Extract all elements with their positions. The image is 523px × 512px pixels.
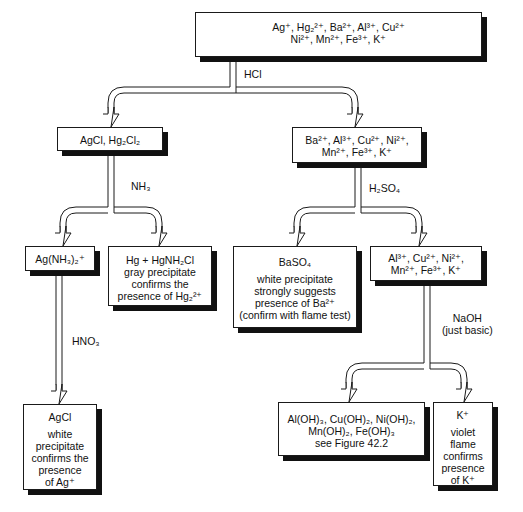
node-text: white <box>28 428 92 440</box>
node-text: presence of Ba²⁺ <box>238 297 352 309</box>
reagent-h2so4: H₂SO₄ <box>369 182 400 194</box>
hydroxides-box: Al(OH)₃, Cu(OH)₂, Ni(OH)₂, Mn(OH)₂, Fe(O… <box>278 402 425 456</box>
nh3-split-left <box>60 207 108 232</box>
hcl-stem <box>230 62 236 93</box>
arrowhead-icon <box>55 226 71 246</box>
node-text: see Figure 42.2 <box>283 437 420 449</box>
node-text: Mn(OH)₂, Fe(OH)₃ <box>283 425 420 437</box>
h2so4-split-right <box>361 207 422 232</box>
node-text: violet <box>438 426 488 438</box>
arrowhead-icon <box>103 107 119 127</box>
start-ions-box: Ag⁺, Hg₂²⁺, Ba²⁺, Al³⁺, Cu²⁺ Ni²⁺, Mn²⁺,… <box>195 12 482 57</box>
potassium-box: K⁺ violet flame confirms presence of K⁺ <box>433 402 493 486</box>
reagent-hcl: HCl <box>244 68 262 80</box>
reagent-naoh-note: (just basic) <box>442 324 493 336</box>
reagent-hno3: HNO₃ <box>72 335 100 347</box>
hno3-stem <box>56 270 62 390</box>
arrowhead-icon <box>347 107 363 127</box>
node-text: flame <box>438 438 488 450</box>
node-text: Ag⁺, Hg₂²⁺, Ba²⁺, Al³⁺, Cu²⁺ <box>200 21 477 33</box>
node-text: Ag(NH₃)₂⁺ <box>30 253 90 265</box>
node-text: Al(OH)₃, Cu(OH)₂, Ni(OH)₂, <box>283 413 420 425</box>
node-text: (confirm with flame test) <box>238 309 352 321</box>
arrowhead-icon <box>151 226 167 246</box>
node-text: confirms <box>438 450 488 462</box>
node-text: gray precipitate <box>113 266 207 278</box>
arrowhead-icon <box>456 382 472 402</box>
hcl-split-right <box>236 87 358 113</box>
mercury-result-box: Hg + HgNH₂Cl gray precipitate confirms t… <box>108 246 212 306</box>
reagent-nh3: NH₃ <box>131 180 150 192</box>
silver-chloride-final-box: AgCl white precipitate confirms the pres… <box>23 404 97 490</box>
node-text: Hg + HgNH₂Cl <box>113 254 207 266</box>
node-text: of K⁺ <box>438 474 488 486</box>
node-text: of Ag⁺ <box>28 476 92 488</box>
node-text: Ni²⁺, Mn²⁺, Fe³⁺, K⁺ <box>200 33 477 45</box>
barium-sulfate-box: BaSO₄ white precipitate strongly suggest… <box>233 246 357 328</box>
silver-ammine-box: Ag(NH₃)₂⁺ <box>25 246 95 271</box>
arrowhead-icon <box>51 384 67 404</box>
chloride-precipitate-box: AgCl, Hg₂Cl₂ <box>57 127 163 151</box>
node-text: white precipitate <box>238 273 352 285</box>
hcl-split-left <box>108 87 236 113</box>
node-text: Mn²⁺, Fe³⁺, K⁺ <box>375 264 477 276</box>
node-text: presence <box>28 464 92 476</box>
node-text: confirms the <box>113 278 207 290</box>
nh3-stem <box>108 150 114 213</box>
node-title: K⁺ <box>438 409 488 421</box>
node-title: BaSO₄ <box>238 256 352 268</box>
reagent-naoh: NaOH (just basic) <box>442 312 493 336</box>
node-text: strongly suggests <box>238 285 352 297</box>
arrowhead-icon <box>411 226 427 246</box>
reagent-naoh-name: NaOH <box>442 312 493 324</box>
node-text: Ba²⁺, Al³⁺, Cu²⁺, Ni²⁺, <box>297 134 417 146</box>
naoh-split-left <box>346 363 424 388</box>
node-text: Mn²⁺, Fe³⁺, K⁺ <box>297 146 417 158</box>
node-text: Al³⁺, Cu²⁺, Ni²⁺, <box>375 252 477 264</box>
h2so4-stem <box>355 163 361 213</box>
h2so4-split-left <box>294 207 355 232</box>
node-text: AgCl, Hg₂Cl₂ <box>62 134 158 146</box>
node-text: presence <box>438 462 488 474</box>
arrowhead-icon <box>289 226 305 246</box>
remaining-after-hcl-box: Ba²⁺, Al³⁺, Cu²⁺, Ni²⁺, Mn²⁺, Fe³⁺, K⁺ <box>292 127 422 163</box>
node-text: confirms the <box>28 452 92 464</box>
naoh-stem <box>424 281 430 369</box>
node-title: AgCl <box>28 411 92 423</box>
node-text: precipitate <box>28 440 92 452</box>
node-text: presence of Hg₂²⁺ <box>113 290 207 302</box>
remaining-after-h2so4-box: Al³⁺, Cu²⁺, Ni²⁺, Mn²⁺, Fe³⁺, K⁺ <box>370 246 482 281</box>
arrowhead-icon <box>341 382 357 402</box>
